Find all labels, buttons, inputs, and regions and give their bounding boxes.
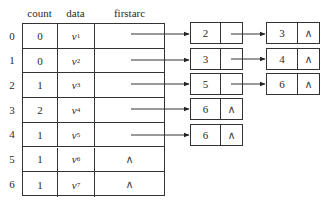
pointer-arrows xyxy=(0,0,329,207)
arrow-icon xyxy=(131,34,265,135)
